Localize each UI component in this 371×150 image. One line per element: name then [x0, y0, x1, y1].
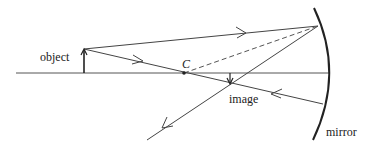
ray-2-incident [84, 49, 323, 104]
ray-1-arrowhead-icon [236, 27, 246, 38]
diagram-canvas: object C image mirror [0, 0, 371, 150]
ray-1-incident [84, 26, 318, 49]
center-label: C [182, 57, 191, 71]
image-label: image [229, 92, 258, 106]
mirror-label: mirror [326, 125, 357, 139]
center-point [182, 71, 186, 75]
mirror-ray-diagram: object C image mirror [0, 0, 371, 150]
object-label: object [40, 50, 70, 64]
